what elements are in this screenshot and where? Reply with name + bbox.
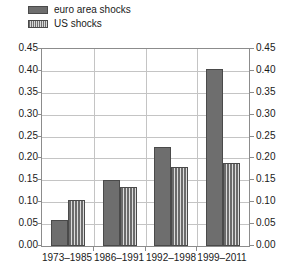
y-axis-tick-label-left: 0.15 xyxy=(4,174,38,184)
y-axis-tick-label-right: 0.40 xyxy=(256,65,290,75)
x-axis-tick-label: 1999–2011 xyxy=(196,252,248,263)
y-axis-tick-label-right: 0.20 xyxy=(256,152,290,162)
x-axis-tick-mark xyxy=(145,247,146,251)
y-axis-tick-mark-left xyxy=(37,223,41,224)
legend-item-euro-area-shocks: euro area shocks xyxy=(28,4,131,15)
y-axis-tick-mark-right xyxy=(250,92,254,93)
y-axis-tick-label-left: 0.25 xyxy=(4,131,38,141)
legend-swatch-striped-icon xyxy=(28,20,48,28)
y-axis-tick-mark-right xyxy=(250,70,254,71)
x-axis-tick-mark xyxy=(196,247,197,251)
bar xyxy=(51,220,68,246)
bar xyxy=(206,69,223,246)
y-axis-tick-mark-left xyxy=(37,157,41,158)
y-axis-tick-mark-right xyxy=(250,114,254,115)
plot-inner xyxy=(42,49,249,246)
y-axis-tick-label-right: 0.15 xyxy=(256,174,290,184)
legend-label-us-shocks: US shocks xyxy=(54,18,102,29)
y-axis-tick-label-left: 0.20 xyxy=(4,152,38,162)
bar xyxy=(171,167,188,246)
y-axis-tick-mark-left xyxy=(37,114,41,115)
y-axis-tick-label-right: 0.30 xyxy=(256,109,290,119)
x-axis-tick-label: 1992–1998 xyxy=(145,252,197,263)
bar xyxy=(68,200,85,246)
legend-swatch-solid-icon xyxy=(28,6,48,14)
y-axis-tick-mark-right xyxy=(250,157,254,158)
y-axis-tick-label-left: 0.45 xyxy=(4,43,38,53)
y-axis-tick-label-right: 0.00 xyxy=(256,240,290,250)
bar-chart: euro area shocks US shocks 0.000.000.050… xyxy=(0,0,290,277)
gridline-vertical xyxy=(146,49,147,246)
y-axis-tick-mark-left xyxy=(37,201,41,202)
y-axis-tick-mark-right xyxy=(250,245,254,246)
y-axis-tick-label-left: 0.10 xyxy=(4,196,38,206)
y-axis-tick-mark-right xyxy=(250,48,254,49)
y-axis-tick-mark-left xyxy=(37,245,41,246)
bar xyxy=(223,163,240,246)
y-axis-tick-mark-left xyxy=(37,136,41,137)
gridline-vertical xyxy=(197,49,198,246)
y-axis-tick-label-right: 0.10 xyxy=(256,196,290,206)
y-axis-tick-mark-left xyxy=(37,70,41,71)
y-axis-tick-label-left: 0.30 xyxy=(4,109,38,119)
y-axis-tick-mark-left xyxy=(37,179,41,180)
x-axis-tick-label: 1986–1991 xyxy=(93,252,145,263)
y-axis-tick-label-right: 0.45 xyxy=(256,43,290,53)
y-axis-tick-mark-right xyxy=(250,223,254,224)
y-axis-tick-mark-right xyxy=(250,201,254,202)
x-axis-tick-label: 1973–1985 xyxy=(41,252,93,263)
y-axis-tick-mark-right xyxy=(250,179,254,180)
y-axis-tick-label-left: 0.35 xyxy=(4,87,38,97)
y-axis-tick-label-right: 0.05 xyxy=(256,218,290,228)
chart-legend: euro area shocks US shocks xyxy=(28,4,131,29)
gridline-vertical xyxy=(94,49,95,246)
y-axis-tick-label-left: 0.05 xyxy=(4,218,38,228)
legend-label-euro-area-shocks: euro area shocks xyxy=(54,4,131,15)
x-axis-tick-mark xyxy=(93,247,94,251)
y-axis-tick-mark-left xyxy=(37,48,41,49)
y-axis-tick-label-left: 0.40 xyxy=(4,65,38,75)
legend-item-us-shocks: US shocks xyxy=(28,18,131,29)
y-axis-tick-mark-right xyxy=(250,136,254,137)
bar xyxy=(120,187,137,246)
y-axis-tick-mark-left xyxy=(37,92,41,93)
bar xyxy=(103,180,120,246)
y-axis-tick-label-left: 0.00 xyxy=(4,240,38,250)
plot-area xyxy=(41,48,250,247)
y-axis-tick-label-right: 0.25 xyxy=(256,131,290,141)
y-axis-tick-label-right: 0.35 xyxy=(256,87,290,97)
bar xyxy=(154,147,171,246)
